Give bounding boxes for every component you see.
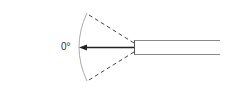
fov-lower-boundary [89,52,134,80]
scope-angle-diagram: 0° [0,0,231,103]
arrow-head-icon [79,45,87,51]
diagram-canvas [0,0,231,103]
angle-label: 0° [61,41,71,53]
fov-upper-boundary [89,15,134,43]
